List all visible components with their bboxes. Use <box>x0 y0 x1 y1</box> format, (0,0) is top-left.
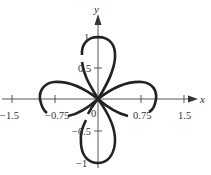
x-axis-label: x <box>199 93 205 105</box>
y-tick-label-neg-1: −1 <box>76 158 87 169</box>
y-tick-label-1: 1 <box>84 32 89 43</box>
x-tick-label-neg-1-5: −1.5 <box>0 110 19 121</box>
y-axis-label: y <box>93 3 99 15</box>
x-tick-label-1-5: 1.5 <box>178 110 191 121</box>
labels: y x −1.5 −0.75 0 0.75 1.5 1 0.5 −0.5 −1 <box>0 3 205 169</box>
polar-plot: y x −1.5 −0.75 0 0.75 1.5 1 0.5 −0.5 −1 <box>0 0 211 175</box>
origin-label: 0 <box>91 108 96 119</box>
y-tick-label-neg-0-5: −0.5 <box>72 126 91 137</box>
x-axis-arrow-icon <box>188 96 198 103</box>
y-tick-label-0-5: 0.5 <box>78 63 91 74</box>
y-axis-arrow-icon <box>95 14 102 25</box>
x-tick-label-0-75: 0.75 <box>133 110 151 121</box>
x-tick-label-neg-0-75: −0.75 <box>45 110 69 121</box>
